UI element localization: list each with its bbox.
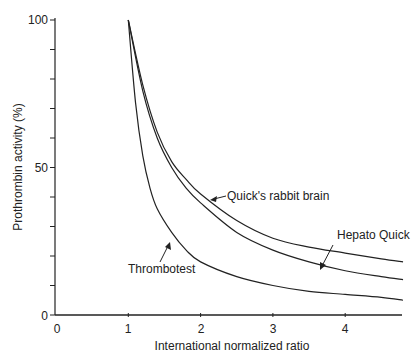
y-axis-label: Prothrombin activity (%) <box>11 103 25 230</box>
label-hepato: Hepato Quick <box>337 228 411 242</box>
arrowhead-quick <box>210 196 217 202</box>
x-tick-1: 1 <box>125 322 132 336</box>
x-tick-3: 3 <box>270 322 277 336</box>
x-tick-4: 4 <box>342 322 349 336</box>
arrow-thrombo <box>160 246 168 262</box>
y-tick-100: 100 <box>28 13 48 27</box>
x-tick-0: 0 <box>54 322 61 336</box>
x-tick-2: 2 <box>198 322 205 336</box>
y-tick-0: 0 <box>41 309 48 323</box>
arrowhead-thrombo <box>165 242 171 250</box>
y-ticks <box>50 20 55 315</box>
curves <box>128 20 403 300</box>
label-quick: Quick's rabbit brain <box>227 189 329 203</box>
y-tick-50: 50 <box>35 161 49 175</box>
curve-thrombotest <box>128 20 403 300</box>
x-axis-label: International normalized ratio <box>155 339 310 353</box>
curve-quick-s-rabbit-brain <box>128 20 403 262</box>
chart: 100 50 0 0 1 2 3 4 International normali… <box>0 0 416 363</box>
arrow-hepato <box>322 245 333 266</box>
label-thrombo: Thrombotest <box>128 262 196 276</box>
